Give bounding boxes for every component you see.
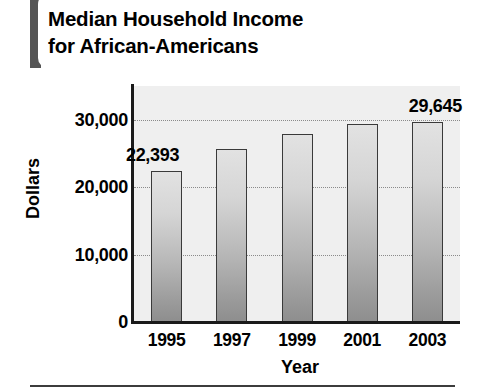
bar [282, 134, 313, 322]
y-axis-line [131, 84, 134, 324]
y-axis-tick-label: 10,000 [8, 244, 128, 265]
bar-value-label: 29,645 [380, 96, 485, 117]
x-axis-tick-label: 1997 [200, 330, 264, 351]
bar [347, 124, 378, 322]
x-axis-title: Year [240, 357, 360, 378]
x-axis-tick-label: 2001 [330, 330, 394, 351]
y-axis-title: Dollars [23, 134, 44, 244]
y-axis-tick-label: 0 [8, 312, 128, 333]
y-axis-tick-label: 30,000 [8, 109, 128, 130]
x-axis-line [131, 321, 460, 324]
plot-area [134, 86, 460, 322]
bottom-divider [30, 385, 455, 387]
gridline [134, 120, 460, 121]
bar [216, 149, 247, 322]
bar-value-label: 22,393 [98, 145, 208, 166]
x-axis-tick-label: 1999 [265, 330, 329, 351]
bar [412, 122, 443, 322]
bar [151, 171, 182, 322]
x-axis-tick-label: 1995 [135, 330, 199, 351]
x-axis-tick-label: 2003 [395, 330, 459, 351]
